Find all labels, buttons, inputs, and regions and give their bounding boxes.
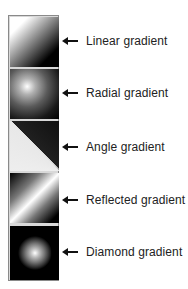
arrow-left-icon [62, 86, 78, 100]
label-reflected-gradient: Reflected gradient [86, 193, 185, 207]
callout-radial: Radial gradient [62, 86, 168, 100]
diamond-gradient-core [18, 236, 52, 270]
reflected-gradient-swatch [10, 173, 59, 223]
radial-gradient-swatch [10, 69, 59, 119]
angle-gradient-swatch [10, 121, 59, 171]
arrow-left-icon [62, 140, 78, 154]
label-radial-gradient: Radial gradient [86, 86, 168, 100]
arrow-left-icon [62, 34, 78, 48]
diamond-gradient-swatch [10, 226, 59, 280]
gradient-samples-strip [8, 15, 59, 281]
linear-gradient-swatch [10, 17, 59, 67]
label-angle-gradient: Angle gradient [86, 140, 165, 154]
callout-linear: Linear gradient [62, 34, 168, 48]
callout-angle: Angle gradient [62, 140, 165, 154]
arrow-left-icon [62, 193, 78, 207]
label-diamond-gradient: Diamond gradient [86, 245, 182, 259]
label-linear-gradient: Linear gradient [86, 34, 168, 48]
callout-diamond: Diamond gradient [62, 245, 182, 259]
arrow-left-icon [62, 245, 78, 259]
callout-reflected: Reflected gradient [62, 193, 185, 207]
